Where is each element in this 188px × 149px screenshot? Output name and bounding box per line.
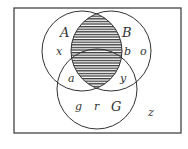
set-b-label: B [121, 25, 132, 40]
element-label-b: b [124, 45, 131, 58]
set-g-label: G [111, 99, 121, 114]
element-label-y: y [119, 72, 127, 85]
element-label-a: a [68, 72, 75, 85]
set-a-label: A [59, 25, 69, 40]
element-label-z: z [147, 106, 154, 119]
element-label-x: x [56, 45, 63, 58]
element-label-o: o [140, 45, 147, 58]
element-label-r: r [94, 100, 100, 113]
venn-diagram: A B G xboaygrz [0, 0, 188, 149]
element-label-g: g [75, 100, 82, 113]
